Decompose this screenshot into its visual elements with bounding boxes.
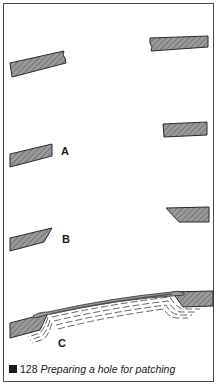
trimmed-edge-right-a <box>163 122 207 137</box>
caption-bullet-icon <box>9 365 17 373</box>
label-a: A <box>61 145 69 157</box>
trimmed-edge-left-a <box>10 144 52 167</box>
label-c: C <box>58 337 66 349</box>
figure-caption: 128 Preparing a hole for patching <box>9 363 175 375</box>
bevelled-edge-right-b <box>166 207 209 222</box>
caption-text: Preparing a hole for patching <box>40 363 175 375</box>
illustration <box>0 0 220 387</box>
bevelled-edge-left-b <box>10 228 52 251</box>
ragged-edge-left <box>10 51 66 77</box>
figure-number: 128 <box>20 363 38 375</box>
ragged-edge-right <box>150 36 208 51</box>
label-b: B <box>62 233 70 245</box>
patch-assembly-c <box>10 291 213 343</box>
